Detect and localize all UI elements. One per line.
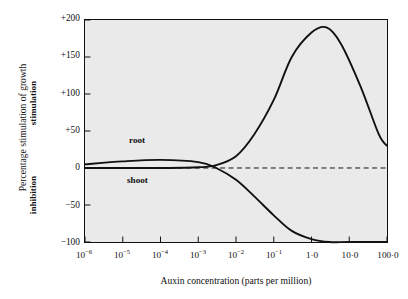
x-axis-title: Auxin concentration (parts per million) [84, 275, 388, 286]
auxin-response-chart: Percentage stimulation of growth stimula… [0, 0, 408, 299]
x-tick-label: 10·0 [342, 250, 359, 260]
x-tick-label: 100·0 [377, 250, 398, 260]
x-tick-label: 1·0 [306, 250, 318, 260]
x-tick-label: 10−2 [228, 250, 244, 260]
x-tick-label: 10−5 [114, 250, 130, 260]
x-tick-label: 10−3 [190, 250, 206, 260]
x-axis-tick-labels: 10−610−510−410−310−210−11·010·0100·0 [0, 0, 408, 299]
x-tick-label: 10−4 [152, 250, 168, 260]
x-tick-label: 10−1 [266, 250, 282, 260]
x-tick-label: 10−6 [76, 250, 92, 260]
